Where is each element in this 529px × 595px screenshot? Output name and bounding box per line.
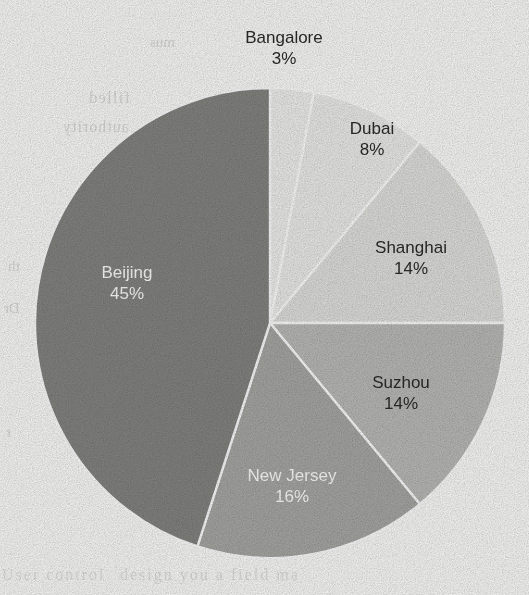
pie-slice-group [35,88,505,558]
pie-chart-figure: filled authority th Dr r mus design you … [0,0,529,595]
pie-chart-svg [0,0,529,595]
